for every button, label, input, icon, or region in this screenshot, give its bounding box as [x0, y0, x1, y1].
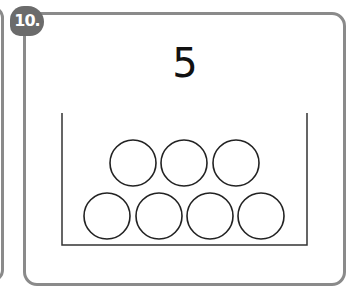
counter-circle [110, 140, 156, 186]
counter-circle [161, 140, 207, 186]
circle-group [84, 140, 284, 239]
counter-circle [238, 193, 284, 239]
counter-circle [84, 193, 130, 239]
counter-circle [136, 193, 182, 239]
counter-circle [213, 140, 259, 186]
container-illustration [0, 0, 359, 290]
counter-circle [187, 193, 233, 239]
open-box [62, 113, 307, 245]
